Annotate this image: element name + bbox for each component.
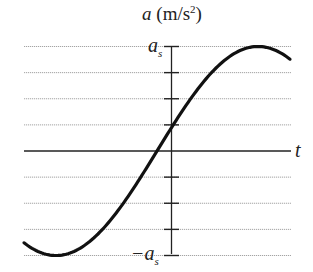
y-bottom-label: −as <box>131 242 159 267</box>
x-axis-label: t <box>295 139 301 162</box>
y-top-label: as <box>148 34 162 59</box>
chart-title: a (m/s2) <box>122 3 222 25</box>
